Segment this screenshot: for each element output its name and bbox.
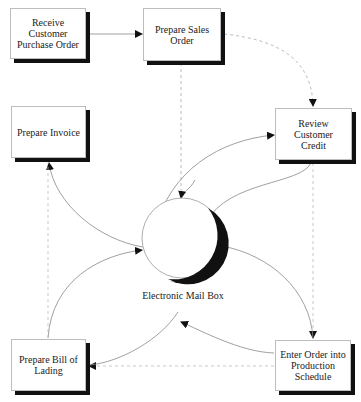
edge-mailbox-to-invoice (49, 163, 143, 247)
node-receive-purchase-order[interactable]: Receive CustomerPurchase Order (10, 8, 86, 59)
edge-mailbox-to-bill-of-lading (90, 312, 178, 365)
node-label-line2: Credit (278, 140, 349, 151)
node-label-line1: Enter Order into (278, 349, 348, 360)
edge-sales-order-to-review-credit (224, 34, 313, 106)
node-label-line2: Production Schedule (278, 360, 348, 382)
node-review-customer-credit[interactable]: Review CustomerCredit (275, 108, 352, 160)
node-label-line1: Prepare Sales Order (146, 24, 218, 46)
node-label-line1: Prepare Invoice (17, 127, 80, 138)
node-label-line1: Review Customer (278, 118, 349, 140)
mailbox-label: Electronic Mail Box (128, 290, 238, 301)
node-prepare-sales-order[interactable]: Prepare Sales Order (143, 8, 221, 61)
edge-review-credit-to-mailbox (206, 163, 311, 222)
node-label-line1: Prepare Bill of (19, 354, 78, 365)
edge-enter-order-to-mailbox (181, 322, 274, 353)
edge-sales-order-to-mailbox-curve (181, 180, 195, 198)
node-label-line2: Lading (19, 365, 78, 376)
node-label-line2: Purchase Order (13, 39, 83, 50)
node-prepare-bill-of-lading[interactable]: Prepare Bill ofLading (11, 339, 86, 391)
node-prepare-invoice[interactable]: Prepare Invoice (11, 106, 86, 158)
node-label-line1: Receive Customer (13, 17, 83, 39)
node-enter-order-production-schedule[interactable]: Enter Order intoProduction Schedule (275, 340, 351, 391)
